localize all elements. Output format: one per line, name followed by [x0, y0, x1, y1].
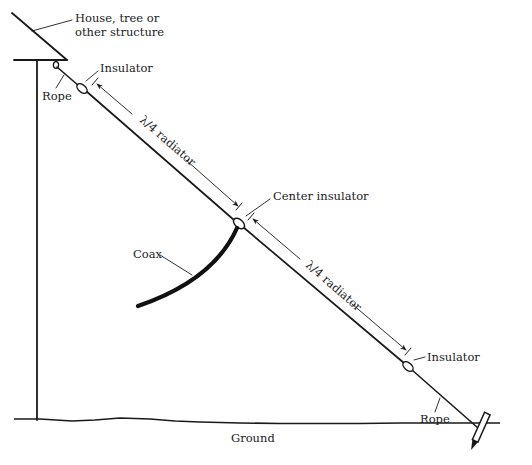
insulator-bottom-leader-line [414, 357, 425, 360]
coax-label: Coax [133, 247, 163, 261]
coax-leader-line [160, 255, 192, 275]
coax-cable-icon [138, 228, 237, 306]
insulator-top-icon [75, 82, 89, 95]
ground-label: Ground [231, 431, 275, 445]
rope-top-label: Rope [42, 89, 72, 103]
support-structure-icon [12, 13, 67, 420]
rope-bottom-label: Rope [420, 412, 450, 426]
rope-bottom-leader-line [435, 398, 440, 412]
antenna-diagram: House, tree or other structure Rope Insu… [0, 0, 532, 465]
insulator-bottom-icon [401, 360, 415, 373]
insulator-bottom-label: Insulator [427, 350, 480, 364]
insulator-top-label: Insulator [100, 61, 153, 75]
rope-top-leader-line [56, 75, 64, 88]
ground-stake-icon [468, 412, 490, 451]
structure-leader-line [32, 20, 72, 31]
radiator-upper-label: λ/4 radiator [137, 113, 199, 169]
center-insulator-leader-line [246, 199, 270, 216]
center-insulator-label: Center insulator [273, 189, 369, 203]
structure-label: House, tree or other structure [75, 11, 164, 39]
antenna-wire-icon [57, 67, 478, 428]
